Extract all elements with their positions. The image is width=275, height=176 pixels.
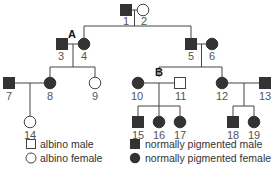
legend-pigmented-female-icon: [130, 153, 140, 163]
individual-19-pigmented-female-icon: [248, 116, 260, 128]
label-11: 11: [175, 90, 186, 102]
label-5: 5: [188, 50, 194, 62]
individual-10-pigmented-female-icon: [132, 77, 144, 89]
label-4: 4: [81, 50, 87, 62]
individual-3-pigmented-male-icon: [57, 39, 68, 50]
label-12: 12: [216, 90, 228, 102]
individual-11-albino-male-icon: [175, 78, 186, 89]
pedigree-chart: 1 2 A 3 4 5 6 7 8 9 B 10 11 12 13 14 15 …: [0, 0, 275, 176]
individual-15-pigmented-male-icon: [133, 117, 144, 128]
legend-albino-female-label: albino female: [40, 152, 103, 164]
label-13: 13: [259, 90, 271, 102]
marker-a: A: [68, 28, 76, 40]
label-1: 1: [123, 15, 129, 27]
legend: albino male albino female normally pigme…: [26, 138, 271, 164]
individual-6-pigmented-female-icon: [206, 38, 218, 50]
individual-1-pigmented-male-icon: [121, 5, 132, 16]
individual-18-pigmented-male-icon: [228, 117, 239, 128]
legend-albino-male-label: albino male: [40, 138, 94, 150]
label-10: 10: [131, 90, 143, 102]
individual-12-pigmented-female-icon: [216, 77, 228, 89]
label-3: 3: [58, 50, 64, 62]
legend-pigmented-male-icon: [130, 139, 140, 149]
individual-13-pigmented-male-icon: [260, 78, 271, 89]
individual-9-albino-female-icon: [89, 77, 101, 89]
individual-14-albino-female-icon: [24, 116, 36, 128]
individual-7-pigmented-male-icon: [4, 78, 15, 89]
individual-8-pigmented-female-icon: [44, 77, 56, 89]
individual-4-pigmented-female-icon: [78, 38, 90, 50]
label-6: 6: [209, 50, 215, 62]
legend-albino-female-icon: [26, 153, 36, 163]
legend-pigmented-female-label: normally pigmented female: [145, 152, 271, 164]
label-7: 7: [6, 90, 12, 102]
individual-16-pigmented-female-icon: [153, 116, 165, 128]
individual-5-pigmented-male-icon: [186, 39, 197, 50]
label-9: 9: [92, 90, 98, 102]
label-2: 2: [141, 15, 147, 27]
individual-17-pigmented-female-icon: [174, 116, 186, 128]
label-8: 8: [47, 90, 53, 102]
legend-albino-male-icon: [27, 140, 36, 149]
marker-b: B: [155, 66, 163, 78]
legend-pigmented-male-label: normally pigmented male: [145, 138, 262, 150]
